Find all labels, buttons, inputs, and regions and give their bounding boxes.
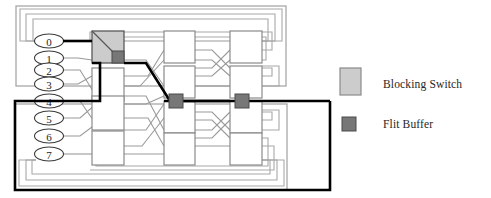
stage1-switches — [92, 31, 124, 165]
legend — [340, 68, 361, 131]
node-6[interactable]: 6 — [35, 129, 64, 143]
node-5-label: 5 — [46, 113, 52, 125]
blocking-switch-swatch — [340, 68, 361, 95]
node-0[interactable]: 0 — [35, 34, 64, 48]
flit-buffer-stage2[interactable] — [169, 94, 183, 108]
node-3-label: 3 — [46, 79, 52, 91]
wire-n5-s1r2 — [63, 104, 96, 118]
loopback-inner-top-3 — [262, 68, 272, 76]
switch-s1r3[interactable] — [92, 131, 124, 165]
switch-s3r0[interactable] — [230, 31, 262, 63]
node-2-label: 2 — [46, 65, 52, 77]
wire-s1r2-s2r1 — [124, 96, 164, 104]
network-diagram: 0 1 2 3 4 5 6 — [0, 0, 491, 198]
stage1-stage2-wires — [124, 41, 164, 154]
figure-root: 0 1 2 3 4 5 6 — [0, 0, 491, 198]
node-7-label: 7 — [46, 149, 52, 161]
wire-n1-s1r0 — [63, 58, 92, 60]
switch-s3r3[interactable] — [230, 133, 262, 165]
loopback-inner-bottom-1 — [262, 112, 272, 120]
switch-s2r3[interactable] — [164, 133, 195, 165]
stage2-stage3-wires — [195, 41, 230, 146]
switch-s2r1[interactable] — [164, 66, 195, 98]
legend-label-blocking-switch: Blocking Switch — [383, 78, 462, 90]
node-5[interactable]: 5 — [35, 111, 64, 125]
network-nodes: 0 1 2 3 4 5 6 — [35, 34, 64, 161]
wire-s1r3-cross — [124, 118, 164, 146]
node-0-label: 0 — [46, 36, 52, 48]
wire-s1r2-s2r3b — [124, 118, 164, 146]
switch-s2r0[interactable] — [164, 31, 195, 63]
wire-n6-s1r3 — [63, 124, 96, 136]
node-7[interactable]: 7 — [35, 147, 64, 161]
node-6-label: 6 — [46, 131, 52, 143]
blocking-switch[interactable] — [92, 31, 124, 63]
node-2[interactable]: 2 — [35, 63, 64, 77]
blocking-switch-inner-flit-buffer — [112, 51, 124, 63]
switch-s3r1[interactable] — [230, 66, 262, 98]
legend-label-flit-buffer: Flit Buffer — [383, 118, 433, 130]
flit-buffer-swatch — [342, 117, 356, 131]
flit-buffer-stage3[interactable] — [235, 94, 249, 108]
node-3[interactable]: 3 — [35, 77, 64, 91]
